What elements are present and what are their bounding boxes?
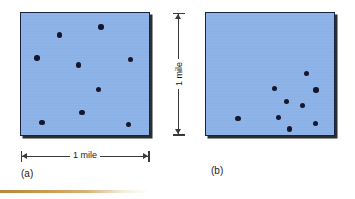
- data-point: [34, 55, 39, 60]
- data-point: [272, 86, 277, 91]
- data-point: [79, 110, 84, 115]
- data-point: [128, 57, 133, 62]
- data-point: [300, 103, 305, 108]
- data-point: [313, 87, 318, 92]
- data-point: [39, 120, 44, 125]
- bottom-rule-divider: [0, 190, 150, 193]
- data-point: [235, 116, 240, 121]
- plot-square-a: [20, 12, 150, 136]
- dot-layer-b: [206, 13, 334, 135]
- dimension-horizontal-label: 1 mile: [70, 149, 100, 162]
- data-point: [284, 99, 289, 104]
- data-point: [98, 24, 103, 29]
- data-point: [287, 126, 292, 131]
- dimension-vertical-arrow-bottom-icon: [175, 129, 181, 134]
- panel-caption-a: (a): [21, 168, 33, 180]
- dimension-vertical-1-mile: 1 mile: [171, 12, 186, 136]
- dimension-horizontal-arrow-left-icon: [22, 153, 27, 159]
- data-point: [304, 71, 309, 76]
- data-point: [96, 87, 101, 92]
- dot-layer-a: [21, 13, 149, 135]
- dimension-horizontal-1-mile: 1 mile: [20, 149, 150, 163]
- data-point: [276, 115, 281, 120]
- panel-caption-b: (b): [211, 165, 223, 177]
- data-point: [126, 122, 131, 127]
- dimension-vertical-arrow-top-icon: [175, 14, 181, 19]
- plot-square-b: [205, 12, 335, 136]
- dimension-horizontal-arrow-right-icon: [143, 153, 148, 159]
- dimension-vertical-label: 1 mile: [173, 59, 185, 89]
- data-point: [76, 62, 81, 67]
- data-point: [313, 121, 318, 126]
- data-point: [57, 32, 62, 37]
- figure-container: 1 mile 1 mile (a) (b): [0, 0, 355, 199]
